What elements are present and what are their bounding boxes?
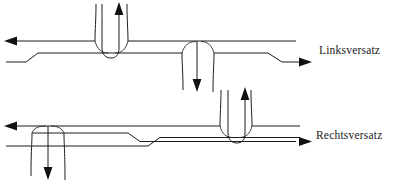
arrow-down-upper-icon (193, 79, 202, 92)
road-offset-diagram (0, 0, 393, 189)
lower-main-road-south-edge (6, 133, 300, 146)
figure-root: Linksversatz Rechtsversatz (0, 0, 393, 189)
arrow-down-lower-icon (44, 167, 53, 180)
label-rechtsversatz: Rechtsversatz (316, 129, 382, 141)
upper-main-road-south-edge (6, 53, 304, 62)
arrow-right-upper-icon (299, 58, 312, 67)
upper-north-side-road (95, 4, 128, 58)
arrow-right-lower-icon (299, 137, 312, 146)
arrow-left-upper-icon (4, 37, 17, 46)
arrow-up-lower-icon (241, 87, 250, 100)
arrow-up-upper-icon (115, 2, 124, 15)
linksversatz-diagram (4, 2, 312, 92)
arrow-left-lower-icon (4, 122, 17, 131)
label-linksversatz: Linksversatz (319, 44, 380, 56)
rechtsversatz-diagram (4, 87, 312, 180)
